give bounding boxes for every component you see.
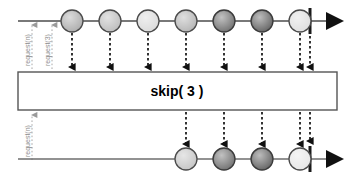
source-marble[interactable] bbox=[137, 10, 159, 32]
input-arrows-group bbox=[72, 33, 310, 67]
result-marble[interactable] bbox=[251, 148, 273, 170]
source-arrowhead-icon bbox=[326, 12, 344, 30]
result-timeline-group bbox=[18, 146, 344, 172]
request-n-label-top: request(n) bbox=[24, 34, 32, 66]
result-marble[interactable] bbox=[213, 148, 235, 170]
source-marble[interactable] bbox=[289, 10, 311, 32]
output-arrows-group bbox=[186, 112, 310, 144]
source-marble[interactable] bbox=[175, 10, 197, 32]
source-timeline-group bbox=[18, 8, 344, 34]
marble-diagram-canvas: request(n) request(3) skip( 3 ) bbox=[0, 0, 352, 179]
source-marble[interactable] bbox=[213, 10, 235, 32]
result-marble[interactable] bbox=[289, 148, 311, 170]
marble-diagram-root: request(n) request(3) skip( 3 ) bbox=[0, 0, 352, 179]
source-marble[interactable] bbox=[99, 10, 121, 32]
backpressure-group-top: request(n) request(3) bbox=[24, 25, 52, 69]
result-arrowhead-icon bbox=[326, 150, 344, 168]
request-n-label-bottom: request(n) bbox=[24, 125, 32, 157]
operator-label: skip( 3 ) bbox=[151, 83, 204, 99]
backpressure-group-bottom: request(n) bbox=[24, 115, 32, 160]
request-3-label-top: request(3) bbox=[44, 34, 52, 66]
operator-box[interactable]: skip( 3 ) bbox=[18, 72, 337, 110]
source-marble[interactable] bbox=[251, 10, 273, 32]
source-marble[interactable] bbox=[61, 10, 83, 32]
result-marble[interactable] bbox=[175, 148, 197, 170]
